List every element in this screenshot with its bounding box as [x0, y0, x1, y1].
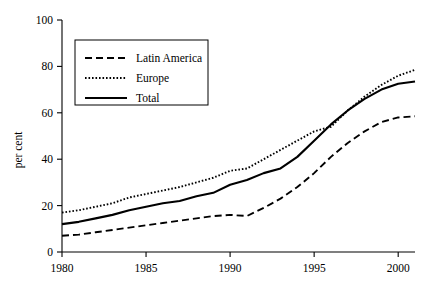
legend-label-latin-america: Latin America	[136, 52, 202, 64]
chart-canvas: 020406080100 19801985199019952000 per ce…	[0, 0, 429, 293]
y-tick-label: 100	[36, 14, 54, 26]
y-tick-label: 40	[42, 153, 54, 165]
chart-background	[0, 0, 429, 293]
legend-label-europe: Europe	[136, 72, 169, 85]
y-tick-label: 60	[42, 107, 54, 119]
y-tick-label: 80	[42, 60, 54, 72]
line-chart: 020406080100 19801985199019952000 per ce…	[0, 0, 429, 293]
x-tick-label: 1990	[219, 262, 242, 274]
y-tick-label: 20	[42, 200, 54, 212]
x-tick-label: 2000	[387, 262, 410, 274]
x-tick-label: 1995	[303, 262, 326, 274]
y-tick-label: 0	[47, 246, 53, 258]
x-tick-label: 1980	[51, 262, 74, 274]
chart-legend: Latin AmericaEuropeTotal	[75, 40, 208, 105]
y-axis-title: per cent	[12, 131, 25, 169]
legend-label-total: Total	[136, 92, 159, 104]
x-tick-label: 1985	[135, 262, 158, 274]
